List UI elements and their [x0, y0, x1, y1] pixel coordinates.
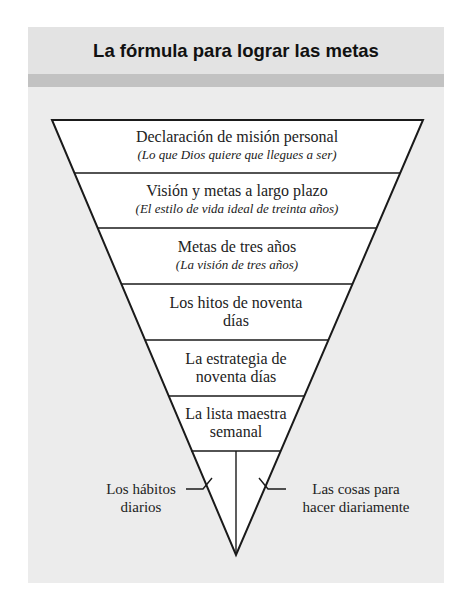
level-subtitle: (La visión de tres años) [120, 256, 354, 273]
daily-tasks-line2: hacer diariamente [286, 498, 426, 516]
level-subtitle: (El estilo de vida ideal de treinta años… [97, 200, 377, 217]
level-title: Declaración de misión personal [80, 128, 394, 146]
daily-habits-line1: Los hábitos [96, 480, 186, 498]
level-title: Metas de tres años [120, 238, 354, 256]
level-title: noventa días [160, 368, 312, 386]
level-ninety-day-milestones: Los hitos de noventa días [140, 294, 332, 330]
level-title: Los hitos de noventa [140, 294, 332, 312]
daily-habits-line2: diarios [96, 498, 186, 516]
level-mission: Declaración de misión personal (Lo que D… [80, 128, 394, 163]
daily-habits-label: Los hábitos diarios [96, 480, 186, 516]
daily-tasks-line1: Las cosas para [286, 480, 426, 498]
level-long-term-vision: Visión y metas a largo plazo (El estilo … [97, 182, 377, 217]
level-title: La lista maestra [176, 405, 296, 423]
level-subtitle: (Lo que Dios quiere que llegues a ser) [80, 146, 394, 163]
level-title: Visión y metas a largo plazo [97, 182, 377, 200]
level-ninety-day-strategy: La estrategia de noventa días [160, 350, 312, 386]
level-title: La estrategia de [160, 350, 312, 368]
level-weekly-master-list: La lista maestra semanal [176, 405, 296, 441]
level-title: días [140, 312, 332, 330]
level-title: semanal [176, 423, 296, 441]
level-three-year-goals: Metas de tres años (La visión de tres añ… [120, 238, 354, 273]
daily-tasks-label: Las cosas para hacer diariamente [286, 480, 426, 516]
